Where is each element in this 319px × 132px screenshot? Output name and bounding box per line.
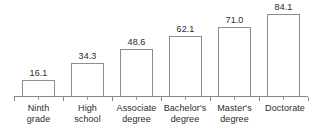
- bar-high-school: [71, 63, 104, 96]
- axis-tick-boundary: [308, 97, 309, 101]
- axis-tick-boundary: [259, 97, 260, 101]
- axis-tick-boundary: [14, 97, 15, 101]
- axis-tick-center: [185, 97, 186, 100]
- x-axis-label-line-2: degree: [206, 114, 263, 125]
- axis-tick-boundary: [161, 97, 162, 101]
- bar-chart: 16.1 34.3 48.6 62.1 71.0 84.1 Ninth grad…: [0, 0, 319, 132]
- x-axis-label-doctorate: Doctorate: [254, 103, 316, 114]
- bar-value-label: 71.0: [210, 15, 259, 25]
- plot-area: 16.1 34.3 48.6 62.1 71.0 84.1 Ninth grad…: [0, 0, 319, 132]
- bar-associate-degree: [120, 49, 153, 96]
- bar-value-label: 48.6: [112, 37, 161, 47]
- axis-tick-boundary: [63, 97, 64, 101]
- axis-tick-center: [283, 97, 284, 100]
- axis-tick-center: [87, 97, 88, 100]
- axis-tick-boundary: [210, 97, 211, 101]
- x-axis-label-line-1: Doctorate: [254, 103, 316, 114]
- axis-tick-boundary: [112, 97, 113, 101]
- bar-value-label: 62.1: [161, 24, 210, 34]
- bar-value-label: 84.1: [259, 2, 308, 12]
- bar-masters-degree: [218, 27, 251, 96]
- bar-ninth-grade: [22, 80, 55, 96]
- axis-tick-center: [136, 97, 137, 100]
- axis-tick-center: [38, 97, 39, 100]
- bar-value-label: 34.3: [63, 51, 112, 61]
- bar-doctorate: [267, 14, 300, 96]
- bar-bachelors-degree: [169, 36, 202, 96]
- bar-value-label: 16.1: [14, 68, 63, 78]
- axis-tick-center: [234, 97, 235, 100]
